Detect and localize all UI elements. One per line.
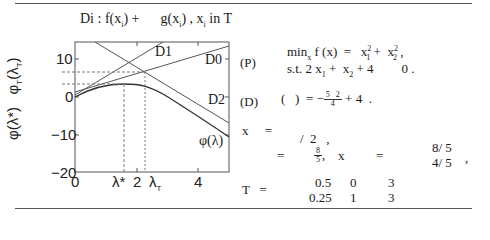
x-star-eq: = [376,148,383,164]
minus-sign: − [317,91,324,107]
label-d2: D2 [208,92,225,108]
curve-phi [75,84,229,137]
constraint-text: + x [326,61,350,76]
label-d1: D1 [155,44,172,60]
x-star-vector-2: 4/ 5 [432,155,452,171]
comma: , [397,44,404,59]
x-tick-label-2: 2 [133,173,141,190]
t-matrix-r1c2: 0 [350,175,357,191]
min-text: min [287,44,307,59]
x-star-vector-1: 8/ 5 [432,140,452,156]
dual-equation: ( ) = −5 24 + 4 . [281,90,372,108]
y-tick-label-0: 0 [65,88,73,105]
frac-den: 5 [314,156,322,164]
frac-den: 4 [324,100,342,108]
dual-label: (D) [240,94,258,110]
x-tick-label-4: 4 [194,173,202,190]
t-matrix-r1c1: 0.5 [315,175,331,191]
constraint-text: + 4 [353,61,373,76]
x-tick-label-lambda-star: λ* [112,173,125,190]
lambda-fraction: 85 [314,147,322,164]
constraint-rhs: 0 . [402,61,415,76]
label-phi: φ(λ) [199,133,223,149]
t-matrix-r2c1: 0.25 [309,190,332,206]
constraint-text: s.t. 2 x [287,61,322,76]
dual-fraction: 5 24 [324,91,342,108]
x-star-comma: , [465,150,468,166]
x-lambda-eq: x = [242,123,272,139]
lambda-star-eq: = [277,148,284,164]
lambda-t-sub: T [157,184,162,193]
t-matrix-r1c3: 3 [388,175,395,191]
line-d1 [75,42,163,95]
t-matrix-r2c3: 3 [388,190,395,206]
primal-label: (P) [240,55,256,71]
x-star-label: x [338,148,345,164]
objective-text: f (x) = x [311,44,367,59]
x-tick-label-0: 0 [71,173,79,190]
primal-constraint: s.t. 2 x1 + x2 + 40 . [287,61,415,79]
t-matrix-r2c2: 1 [350,190,357,206]
dual-rest: + 4 . [345,91,372,107]
comma: , [322,147,325,162]
x-tick-label-lambda-t: λT [149,173,161,193]
y-tick-label-10: 10 [56,50,73,67]
y-tick-label-neg10: −10 [51,126,76,143]
primal-objective: minx f (x) = x21 + x22 , [287,44,403,62]
t-matrix-label: T = [242,182,267,198]
lambda-t: λ [149,173,157,190]
dual-lhs: ( ) = [281,91,313,107]
label-d0: D0 [205,52,222,68]
plus-text: + x [370,44,394,59]
lambda-star-value: 85, [314,145,325,164]
